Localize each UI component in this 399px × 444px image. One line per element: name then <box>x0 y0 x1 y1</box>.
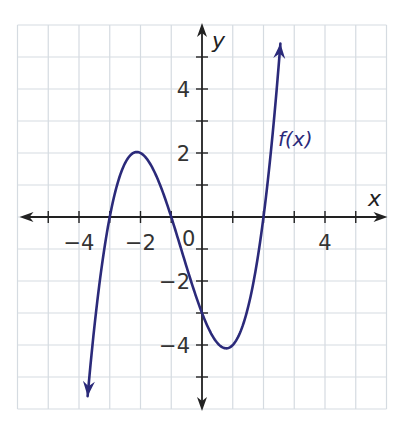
x-axis-label: x <box>367 186 382 211</box>
axes <box>20 23 388 411</box>
y-tick-label: −4 <box>159 334 190 358</box>
y-tick-label: 2 <box>177 142 190 166</box>
y-tick-label: 4 <box>177 78 190 102</box>
tick-labels: −4−2442−2−4 <box>64 78 332 358</box>
y-tick-label: −2 <box>159 270 190 294</box>
x-tick-label: 4 <box>318 231 331 255</box>
curve-label: f(x) <box>278 127 312 151</box>
origin-label: 0 <box>182 227 195 251</box>
function-graph: −4−2442−2−4 x y 0 f(x) <box>0 0 399 444</box>
x-tick-label: −2 <box>125 231 156 255</box>
y-axis-label: y <box>211 28 226 53</box>
x-tick-label: −4 <box>64 231 95 255</box>
